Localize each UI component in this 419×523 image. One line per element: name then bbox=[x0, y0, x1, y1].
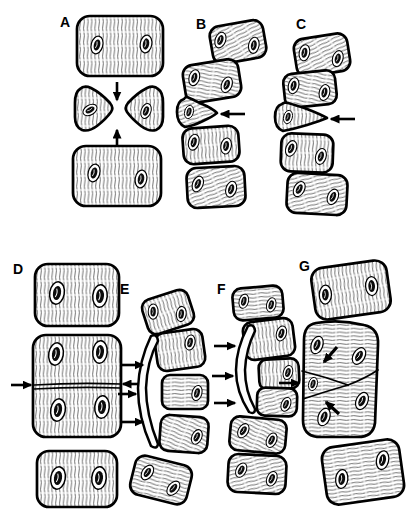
cell bbox=[229, 416, 288, 455]
wedge-cell bbox=[275, 103, 327, 131]
cell bbox=[310, 259, 392, 321]
cell bbox=[186, 166, 246, 209]
panel-e-label: E bbox=[120, 281, 129, 297]
cell bbox=[162, 375, 208, 409]
fused-cell-block bbox=[33, 335, 121, 437]
cell bbox=[128, 454, 194, 507]
panel-c-label: C bbox=[296, 16, 306, 32]
cell bbox=[232, 285, 285, 321]
cell bbox=[73, 146, 161, 206]
panel-d-label: D bbox=[13, 261, 23, 277]
wedge-cell bbox=[75, 87, 112, 131]
panel-c: C bbox=[275, 16, 355, 216]
cell bbox=[154, 328, 207, 372]
panel-a: A bbox=[60, 14, 163, 206]
cell bbox=[320, 438, 405, 506]
panel-f-label: F bbox=[217, 281, 226, 297]
cell bbox=[280, 133, 333, 173]
panel-e: E bbox=[118, 281, 209, 506]
cell bbox=[286, 172, 348, 215]
cell bbox=[208, 19, 268, 66]
nucleus bbox=[148, 304, 158, 320]
panel-d: D bbox=[11, 261, 143, 507]
fused-wedge-block bbox=[302, 321, 378, 437]
cell bbox=[77, 16, 163, 76]
diagram-svg: A B bbox=[0, 0, 419, 523]
cell bbox=[257, 387, 298, 416]
cell bbox=[258, 358, 300, 390]
cell bbox=[35, 264, 119, 326]
nucleus bbox=[319, 285, 332, 304]
compressed-band bbox=[236, 325, 255, 413]
cell bbox=[37, 451, 117, 507]
nucleus bbox=[365, 276, 378, 296]
panel-g: G bbox=[299, 258, 406, 506]
wedge-cell bbox=[126, 87, 163, 131]
figure-canvas: A B bbox=[0, 0, 419, 523]
panel-g-label: G bbox=[299, 258, 310, 274]
panel-a-label: A bbox=[60, 14, 70, 30]
cell bbox=[227, 454, 287, 495]
panel-f: F bbox=[212, 281, 300, 494]
cell bbox=[182, 125, 240, 165]
panel-b-label: B bbox=[196, 16, 206, 32]
panel-b: B bbox=[177, 16, 268, 208]
cell bbox=[159, 414, 209, 453]
